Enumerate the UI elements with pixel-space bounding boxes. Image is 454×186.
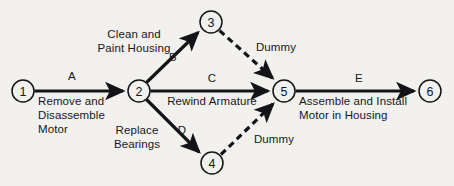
edge-c-code-label: C bbox=[198, 72, 226, 85]
edge-d-code-label: D bbox=[175, 124, 189, 137]
edge-e-desc-line2: Motor in Housing bbox=[299, 109, 388, 122]
node-3-label: 3 bbox=[208, 16, 215, 30]
dummy-top-label: Dummy bbox=[248, 41, 304, 54]
node-2-label: 2 bbox=[136, 85, 143, 99]
node-5-label: 5 bbox=[281, 85, 288, 99]
edge-d-desc-line1: Replace bbox=[104, 124, 170, 137]
dummy-bottom-label: Dummy bbox=[246, 133, 302, 146]
network-diagram-svg: 1 2 3 4 5 6 bbox=[0, 0, 454, 186]
node-4-label: 4 bbox=[209, 157, 216, 171]
edge-dummy-top-arrow bbox=[220, 31, 273, 79]
edge-dummy-bottom-arrow bbox=[221, 104, 273, 155]
edge-e-code-label: E bbox=[345, 72, 373, 85]
edge-e-desc-line1: Assemble and Install bbox=[299, 95, 407, 108]
edge-c-desc-line1: Rewind Armature bbox=[155, 95, 269, 108]
edge-b-desc-line2: Paint Housing bbox=[88, 42, 180, 55]
edge-a-desc-line2: Disassemble bbox=[38, 109, 105, 122]
edge-a-code-label: A bbox=[57, 70, 87, 83]
node-6-label: 6 bbox=[427, 85, 434, 99]
diagram-canvas: 1 2 3 4 5 6 A Remove and Disassemble Mot… bbox=[0, 0, 454, 186]
edge-a-desc-line3: Motor bbox=[38, 123, 68, 136]
edge-b-desc-line1: Clean and bbox=[88, 28, 180, 41]
node-1-label: 1 bbox=[20, 85, 27, 99]
edge-d-desc-line2: Bearings bbox=[104, 138, 170, 151]
edge-a-desc-line1: Remove and bbox=[38, 95, 104, 108]
